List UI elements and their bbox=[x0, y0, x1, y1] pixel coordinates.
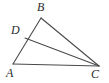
vertex-label-c: C bbox=[91, 68, 99, 80]
geometry-figure: B D A C bbox=[0, 0, 109, 83]
vertex-label-a: A bbox=[6, 67, 13, 79]
vertex-label-d: D bbox=[11, 24, 20, 36]
segment-group bbox=[13, 18, 99, 66]
segment-BC bbox=[41, 18, 99, 66]
segment-AC bbox=[13, 64, 99, 66]
segment-DC bbox=[25, 38, 99, 66]
vertex-label-b: B bbox=[37, 1, 44, 13]
